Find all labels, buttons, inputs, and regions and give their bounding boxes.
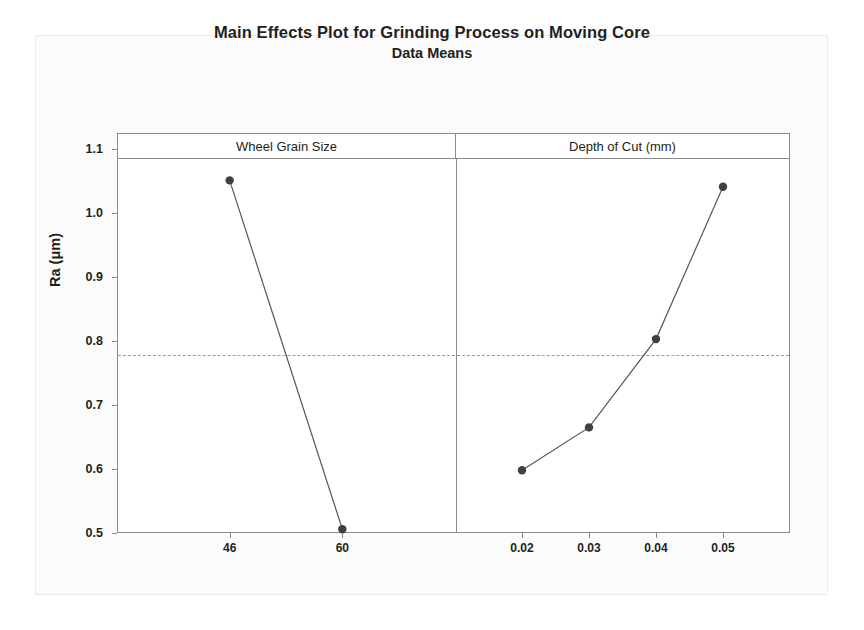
- x-tick-mark: [656, 533, 657, 538]
- y-tick-mark: [112, 469, 117, 470]
- x-tick-mark: [342, 533, 343, 538]
- panel-header-1: Wheel Grain Size: [117, 133, 455, 159]
- grand-mean-reference-line: [118, 355, 789, 356]
- x-tick-mark: [522, 533, 523, 538]
- chart-title-block: Main Effects Plot for Grinding Process o…: [0, 22, 864, 63]
- y-tick-label: 0.7: [63, 398, 103, 412]
- y-tick-mark: [112, 213, 117, 214]
- x-tick-label: 0.03: [577, 541, 600, 555]
- x-tick-label: 60: [336, 541, 349, 555]
- x-tick-label: 0.02: [510, 541, 533, 555]
- y-tick-mark: [112, 277, 117, 278]
- y-tick-label: 0.8: [63, 334, 103, 348]
- y-tick-label: 0.6: [63, 462, 103, 476]
- page-title: Main Effects Plot for Grinding Process o…: [0, 22, 864, 43]
- y-tick-label: 0.5: [63, 526, 103, 540]
- x-tick-label: 46: [223, 541, 236, 555]
- plot-frame: Wheel Grain SizeDepth of Cut (mm): [117, 133, 790, 533]
- y-tick-mark: [112, 533, 117, 534]
- panel-header-row: Wheel Grain SizeDepth of Cut (mm): [117, 133, 790, 159]
- panel-divider: [456, 159, 457, 532]
- y-tick-label: 1.0: [63, 206, 103, 220]
- y-tick-mark: [112, 149, 117, 150]
- y-tick-label: 1.1: [63, 142, 103, 156]
- plot-area: [117, 159, 790, 533]
- panel-header-2: Depth of Cut (mm): [455, 133, 790, 159]
- y-tick-label: 0.9: [63, 270, 103, 284]
- x-tick-label: 0.05: [711, 541, 734, 555]
- x-tick-label: 0.04: [644, 541, 667, 555]
- x-tick-mark: [723, 533, 724, 538]
- y-axis-title: Ra (μm): [47, 180, 63, 340]
- chart-subtitle: Data Means: [0, 43, 864, 63]
- y-tick-mark: [112, 405, 117, 406]
- x-tick-mark: [230, 533, 231, 538]
- x-tick-mark: [589, 533, 590, 538]
- y-tick-mark: [112, 341, 117, 342]
